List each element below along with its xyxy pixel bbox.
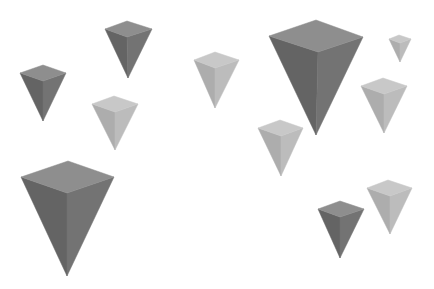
pyramid-scene [0,0,434,289]
pyramids-canvas [0,0,434,289]
